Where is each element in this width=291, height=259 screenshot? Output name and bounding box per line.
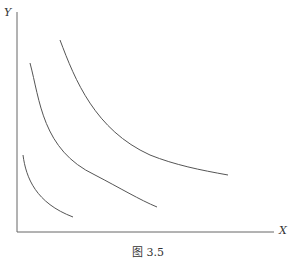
y-axis-label: Y	[4, 6, 11, 19]
indifference-curve-3	[60, 40, 228, 175]
x-axis-label: X	[279, 224, 287, 237]
figure-caption: 图 3.5	[132, 243, 164, 259]
indifference-curve-1	[23, 155, 73, 217]
indifference-curve-2	[30, 63, 157, 207]
